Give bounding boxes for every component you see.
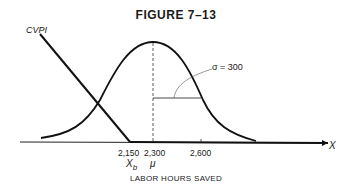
figure-plot	[0, 0, 352, 196]
cvpi-label: CVPI	[26, 25, 47, 35]
xb-sub: b	[133, 163, 137, 172]
xb-main: X	[126, 158, 133, 169]
tick-label-2600: 2,600	[190, 148, 211, 158]
x-axis-label: LABOR HOURS SAVED	[0, 174, 352, 183]
x-axis-arrow-icon	[322, 140, 328, 146]
normal-curve	[41, 42, 256, 141]
sigma-label: σ = 300	[212, 62, 243, 72]
figure-title: FIGURE 7–13	[0, 8, 352, 22]
cvpi-zero-segment	[130, 142, 328, 143]
cvpi-line	[40, 34, 130, 142]
xb-symbol: Xb	[126, 158, 137, 172]
tick-label-2150: 2,150	[118, 148, 139, 158]
tick-label-2300: 2,300	[144, 148, 165, 158]
mu-symbol: μ	[150, 158, 155, 169]
sigma-leader	[174, 69, 212, 98]
x-symbol: X	[329, 140, 336, 151]
